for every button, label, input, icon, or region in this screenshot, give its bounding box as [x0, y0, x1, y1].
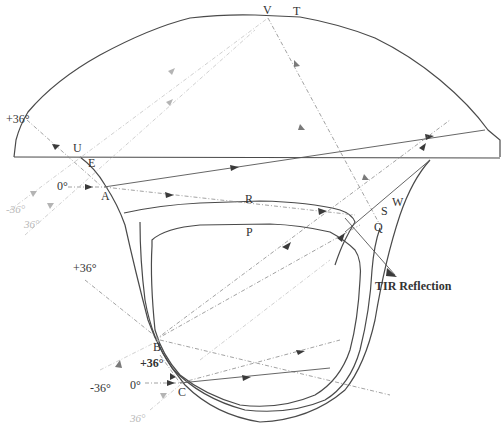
label-s: S [381, 204, 388, 218]
arrow-icon [282, 242, 291, 250]
ray-plus36-top [27, 120, 100, 185]
arrow-icon [47, 203, 54, 209]
arrow-icon [167, 380, 175, 386]
label-w: W [392, 195, 404, 209]
arrow-icon [52, 144, 60, 150]
ray-c-1 [180, 368, 330, 383]
arrow-icon [230, 165, 239, 171]
arrow-icon [168, 68, 175, 75]
arrow-icon [386, 268, 397, 277]
ray-b-upper-1 [155, 120, 450, 340]
label-v: V [263, 3, 272, 17]
label-c: C [178, 385, 186, 399]
label-t: T [293, 4, 301, 18]
angle-top-left-plus36: +36° [6, 112, 30, 126]
arrow-icon [318, 208, 327, 215]
ray-v-q [268, 18, 380, 225]
ray-a-r-s [104, 187, 355, 215]
ray-minus36-lower [25, 30, 255, 235]
arrow-icon [296, 350, 305, 355]
arrow-icon [170, 373, 176, 380]
label-b: B [153, 340, 161, 354]
dome-base-line [14, 157, 500, 158]
angle-c-minus36-lower: 36° [129, 412, 146, 424]
ray-minus36-upper [10, 18, 268, 210]
angle-a-minus36-lower: 36° [23, 218, 40, 230]
rays [10, 18, 485, 410]
arrow-icon [165, 192, 174, 198]
ray-w-wall [345, 160, 430, 232]
angle-labels: +36° 0° -36° 36° +36° +36° 0° -36° 36° [6, 112, 164, 424]
ray-b-upper-2 [155, 225, 360, 340]
angle-a-zero: 0° [57, 179, 68, 193]
arrow-icon [294, 60, 300, 67]
tir-reflection-label: TIR Reflection [375, 279, 452, 293]
lens-outlines [14, 15, 500, 422]
arrow-icon [419, 143, 426, 151]
angle-c-plus36: +36° [140, 356, 164, 370]
label-p: P [246, 225, 253, 239]
optical-diagram: V T U E A R S W Q P B C +36° 0° -36° 36°… [0, 0, 501, 430]
label-u: U [73, 141, 82, 155]
arrow-icon [362, 174, 369, 180]
angle-c-zero: 0° [130, 378, 141, 392]
label-e: E [88, 156, 95, 170]
ray-tir [345, 218, 395, 275]
ray-faint-internal [200, 260, 330, 360]
arrow-icon [166, 99, 173, 106]
arrow-icon [298, 124, 305, 130]
ray-c-2 [180, 340, 340, 383]
label-r: R [245, 192, 253, 206]
angle-a-minus36-upper: -36° [6, 203, 26, 215]
ray-plus36-b [85, 280, 160, 340]
ray-minus36-c [150, 385, 180, 410]
point-labels: V T U E A R S W Q P B C [73, 3, 404, 399]
arrow-icon [160, 393, 167, 399]
label-a: A [101, 189, 110, 203]
arrow-icon [115, 360, 122, 368]
angle-b-plus36: +36° [73, 261, 97, 275]
label-q: Q [374, 220, 383, 234]
arrow-icon [30, 191, 37, 197]
angle-c-minus36: -36° [90, 381, 111, 395]
arrow-icon [85, 184, 93, 190]
